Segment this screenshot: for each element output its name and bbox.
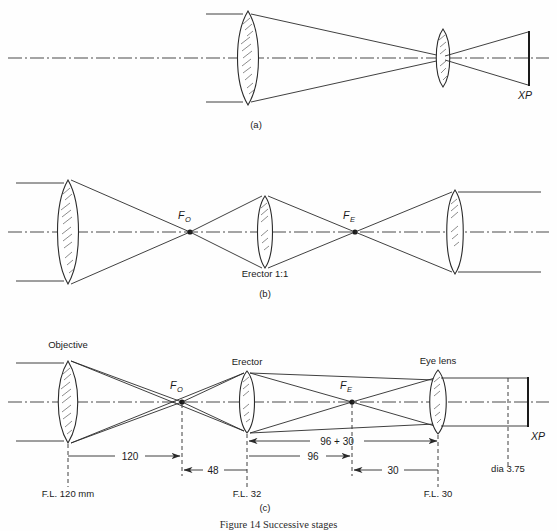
panel-b: F O F E (8, 180, 549, 299)
dim-96-30-label: 96 + 30 (320, 436, 354, 447)
panel-label-c: (c) (259, 502, 270, 513)
fe-label-b: F (343, 209, 350, 221)
dim-30-label: 30 (387, 465, 399, 476)
erector-lens-b (258, 196, 273, 268)
figure-caption: Figure 14 Successive stages (0, 519, 557, 530)
fe-label-c: F (340, 379, 347, 391)
fo-subscript-c: O (177, 385, 183, 394)
eyelens-label-c: Eye lens (420, 355, 457, 366)
dim-96-label: 96 (307, 451, 319, 462)
fl-objective-label: F.L. 120 mm (42, 488, 94, 499)
dim-120-label: 120 (122, 451, 139, 462)
eye-lens-c: Eye lens (420, 355, 457, 434)
panel-label-a: (a) (250, 119, 262, 130)
dimensions-c: 120 48 96 + 30 96 30 F.L. 120 mm F.L. 32… (42, 378, 525, 499)
fe-subscript-b: E (350, 215, 356, 224)
objective-lens-a (238, 11, 259, 105)
dia-label: dia 3.75 (491, 463, 525, 474)
xp-label-a: XP (517, 89, 532, 101)
panel-a: XP (a) (8, 11, 549, 130)
diagram-canvas: XP (a) F O (0, 0, 557, 531)
erector-lens-c: Erector (232, 356, 263, 433)
xp-label-c: XP (530, 430, 545, 442)
fe-subscript-c: E (347, 385, 353, 394)
eye-lens-a (436, 29, 450, 87)
objective-lens-b (58, 180, 79, 284)
optical-diagram-figure: XP (a) F O (0, 0, 557, 531)
dim-48-label: 48 (207, 465, 219, 476)
eye-lens-b (447, 190, 464, 274)
figure-caption-clip: Figure 14 Successive stages (0, 519, 557, 531)
objective-lens-c: Objective (48, 339, 88, 443)
objective-label-c: Objective (48, 339, 88, 350)
fl-erector-label: F.L. 32 (233, 488, 262, 499)
erector-label-c: Erector (232, 356, 263, 367)
fo-subscript-b: O (185, 215, 191, 224)
fo-label-b: F (178, 209, 185, 221)
fo-label-c: F (170, 379, 177, 391)
fl-eyelens-label: F.L. 30 (424, 488, 453, 499)
erector-ratio-label-b: Erector 1:1 (242, 268, 288, 279)
panel-c: Objective F O Erector (8, 339, 549, 513)
panel-label-b: (b) (259, 288, 271, 299)
